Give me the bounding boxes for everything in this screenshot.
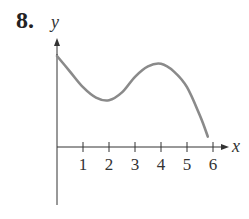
- x-tick-label: 1: [79, 155, 88, 174]
- function-graph: y x 123456: [0, 0, 249, 219]
- y-axis-label: y: [49, 12, 59, 32]
- x-tick-label: 2: [105, 155, 114, 174]
- x-axis-label: x: [231, 136, 240, 156]
- x-tick-label: 6: [209, 155, 218, 174]
- x-tick-label: 5: [183, 155, 192, 174]
- x-tick-label: 4: [157, 155, 166, 174]
- function-curve: [57, 56, 208, 137]
- x-tick-label: 3: [131, 155, 140, 174]
- x-axis-arrow-icon: [221, 144, 229, 150]
